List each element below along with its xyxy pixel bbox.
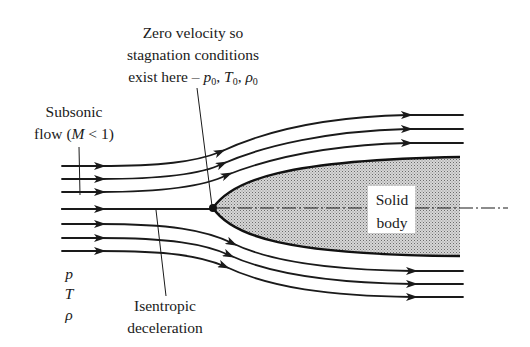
- isentropic-text-line-1: Isentropic: [134, 297, 196, 314]
- freestream-variables: p T ρ: [64, 265, 75, 323]
- solid-body: [213, 157, 460, 256]
- stagnation-text-line-3: exist here – p0, T0, ρ0: [128, 68, 258, 87]
- subsonic-text-line-2: flow (M < 1): [34, 125, 114, 143]
- stagnation-text-line-2: stagnation conditions: [127, 46, 259, 63]
- subsonic-annotation: Subsonic flow (M < 1): [34, 103, 114, 143]
- isentropic-text-line-2: deceleration: [127, 319, 203, 336]
- isentropic-annotation: Isentropic deceleration: [127, 297, 203, 336]
- subsonic-text-line-1: Subsonic: [46, 103, 103, 120]
- freestream-var-p: p: [64, 265, 73, 282]
- streamline-lower-3: [62, 251, 463, 297]
- stagnation-point: [209, 204, 217, 212]
- freestream-var-T: T: [65, 285, 75, 302]
- stagnation-text-line-1: Zero velocity so: [143, 24, 244, 41]
- stagnation-flow-diagram: Zero velocity so stagnation conditions e…: [0, 0, 530, 347]
- freestream-var-rho: ρ: [64, 306, 72, 323]
- stagnation-annotation: Zero velocity so stagnation conditions e…: [127, 24, 259, 87]
- stagnation-leader-line: [197, 88, 212, 206]
- solid-body-shape: [213, 157, 460, 256]
- solid-body-label-line-2: body: [377, 214, 408, 231]
- solid-body-label-line-1: Solid: [376, 191, 409, 208]
- subsonic-leader-line: [79, 147, 80, 195]
